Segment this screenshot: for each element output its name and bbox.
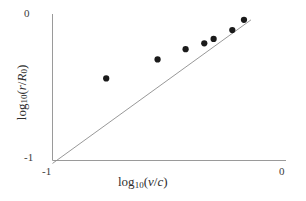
y-axis-title-open-paren: ( xyxy=(14,90,29,94)
data-point xyxy=(103,75,109,81)
y-axis-tick-label-max: 0 xyxy=(24,8,30,19)
y-axis-tick-label-min: -1 xyxy=(24,152,33,163)
data-point xyxy=(241,17,247,23)
y-axis-title-denominator: R xyxy=(14,74,29,82)
y-axis-title-slash: / xyxy=(14,82,29,86)
data-point xyxy=(182,46,188,52)
x-axis-title-log: log xyxy=(118,174,135,189)
x-axis-title-base: 10 xyxy=(135,180,144,190)
trend-line xyxy=(53,20,251,164)
x-axis-tick-label-min: -1 xyxy=(42,166,51,177)
scatter-plot-figure: 0 -1 -1 0 log10(v/c) log10(r/R0) xyxy=(0,0,306,201)
data-point xyxy=(210,36,216,42)
y-axis-title-numerator: r xyxy=(14,85,29,90)
data-point-group xyxy=(103,17,247,82)
y-axis-title-close-paren: ) xyxy=(14,65,29,69)
data-point xyxy=(154,56,160,62)
x-axis-tick-label-max: 0 xyxy=(279,166,285,177)
y-axis-title-base: 10 xyxy=(19,95,29,104)
y-axis-title-denominator-sub: 0 xyxy=(19,69,29,74)
x-axis-title-close-paren: ) xyxy=(163,174,167,189)
y-axis-title: log10(r/R0) xyxy=(15,37,30,147)
y-axis-title-log: log xyxy=(14,104,29,121)
data-point xyxy=(201,40,207,46)
data-point xyxy=(229,27,235,33)
x-axis-title: log10(v/c) xyxy=(118,175,168,190)
